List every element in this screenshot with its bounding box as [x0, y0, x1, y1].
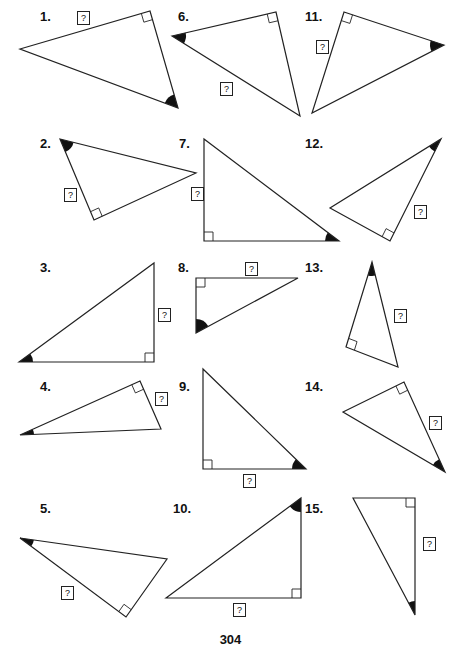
unknown-side-box: ? [158, 308, 171, 322]
unknown-side-box: ? [245, 262, 258, 276]
problem-number: 13. [305, 261, 323, 274]
problem-number: 7. [179, 137, 190, 150]
triangle-problem-7 [204, 139, 339, 241]
triangle-problem-2 [60, 139, 196, 220]
problem-number: 6. [178, 10, 189, 23]
problem-number: 4. [40, 380, 51, 393]
problem-number: 15. [305, 502, 323, 515]
problem-number: 2. [40, 137, 51, 150]
shaded-angle-marker [196, 319, 208, 333]
right-angle-marker [145, 353, 154, 362]
triangles-figure [0, 0, 461, 650]
unknown-side-box: ? [61, 586, 74, 600]
problem-number: 12. [305, 137, 323, 150]
unknown-side-box: ? [394, 309, 407, 323]
triangle-problem-8 [196, 278, 298, 333]
unknown-side-box: ? [64, 188, 77, 202]
triangle-outline [203, 369, 306, 469]
triangle-problem-1 [20, 11, 178, 108]
problem-number: 3. [40, 261, 51, 274]
triangle-problem-5 [20, 538, 167, 617]
problem-number: 14. [305, 380, 323, 393]
triangle-outline [312, 12, 444, 113]
triangle-outline [20, 538, 167, 617]
unknown-side-box: ? [220, 82, 233, 96]
triangle-problem-11 [312, 12, 444, 113]
triangle-problem-6 [172, 12, 300, 116]
unknown-side-box: ? [423, 537, 436, 551]
problem-number: 10. [173, 502, 191, 515]
unknown-side-box: ? [429, 416, 442, 430]
triangle-outline [330, 139, 441, 241]
problem-number: 9. [179, 380, 190, 393]
triangle-outline [19, 263, 154, 362]
triangle-outline [172, 12, 300, 116]
triangle-outline [346, 262, 398, 367]
triangle-problem-13 [346, 262, 398, 367]
right-angle-marker [203, 460, 212, 469]
triangle-problem-3 [19, 263, 154, 362]
triangle-outline [20, 11, 178, 108]
triangle-outline [204, 139, 339, 241]
unknown-side-box: ? [414, 205, 427, 219]
right-angle-marker [119, 604, 131, 611]
triangle-problem-12 [330, 139, 441, 241]
triangle-outline [60, 139, 196, 220]
unknown-side-box: ? [155, 392, 168, 406]
triangle-problem-15 [353, 498, 415, 615]
right-angle-marker [204, 232, 213, 241]
unknown-side-box: ? [316, 40, 329, 54]
triangle-outline [196, 278, 298, 333]
problem-number: 1. [40, 10, 51, 23]
unknown-side-box: ? [191, 187, 204, 201]
triangle-outline [353, 498, 415, 615]
unknown-side-box: ? [243, 474, 256, 488]
problem-number: 11. [305, 10, 322, 23]
problem-number: 8. [178, 261, 189, 274]
unknown-side-box: ? [77, 11, 90, 25]
right-angle-marker [196, 278, 205, 287]
right-angle-marker [292, 589, 301, 598]
page-number: 304 [0, 632, 461, 647]
triangle-problem-9 [203, 369, 306, 469]
problem-number: 5. [40, 502, 51, 515]
right-angle-marker [406, 498, 415, 507]
unknown-side-box: ? [233, 603, 246, 617]
